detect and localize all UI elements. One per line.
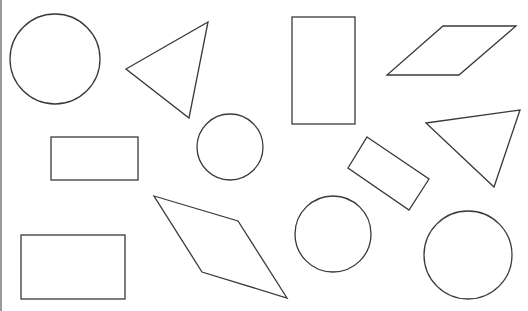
shapes-canvas	[0, 0, 528, 311]
shapes-drawing	[0, 0, 528, 311]
rectangle-rotated-shape	[348, 137, 429, 210]
parallelogram-1-shape	[387, 26, 516, 75]
circle-3-shape	[295, 196, 371, 272]
rectangle-small-shape	[51, 137, 138, 180]
circle-1-shape	[10, 14, 100, 104]
rhombus-1-shape	[154, 196, 287, 298]
triangle-1-shape	[126, 22, 208, 118]
circle-4-shape	[424, 211, 512, 299]
triangle-2-shape	[426, 110, 520, 187]
rectangle-bottom-shape	[21, 235, 125, 299]
circle-2-shape	[197, 114, 263, 180]
rectangle-tall-shape	[292, 17, 355, 124]
